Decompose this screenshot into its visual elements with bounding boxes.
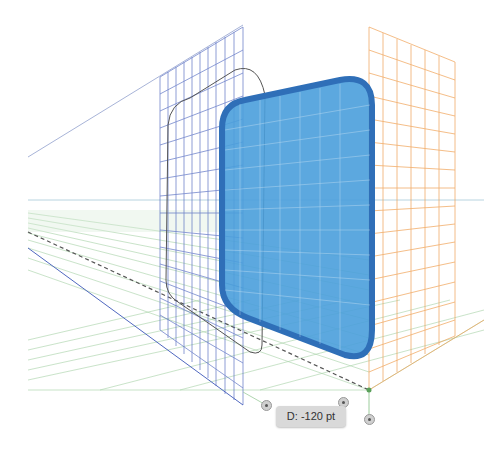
distance-tooltip: D: -120 pt — [276, 406, 346, 427]
left-grid-extent-widget[interactable] — [261, 400, 272, 411]
ground-level-widget[interactable] — [364, 414, 375, 425]
blue-rounded-rectangle[interactable] — [222, 79, 372, 356]
perspective-canvas[interactable] — [0, 0, 484, 462]
vanishing-line-left — [28, 25, 243, 157]
ground-front-line — [28, 248, 243, 405]
origin-point — [367, 388, 372, 393]
